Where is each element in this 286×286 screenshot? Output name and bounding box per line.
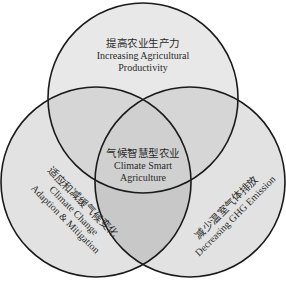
venn-diagram: 提高农业生产力 Increasing Agricultural Producti… [0, 0, 286, 286]
label-center-en-1: Climate Smart [98, 160, 188, 172]
label-top: 提高农业生产力 Increasing Agricultural Producti… [93, 38, 193, 73]
label-top-en-1: Increasing Agricultural [93, 50, 193, 62]
label-top-zh: 提高农业生产力 [93, 38, 193, 50]
label-center: 气候智慧型农业 Climate Smart Agriculture [98, 148, 188, 183]
label-center-en-2: Agriculture [98, 172, 188, 184]
label-top-en-2: Productivity [93, 62, 193, 74]
label-center-zh: 气候智慧型农业 [98, 148, 188, 160]
